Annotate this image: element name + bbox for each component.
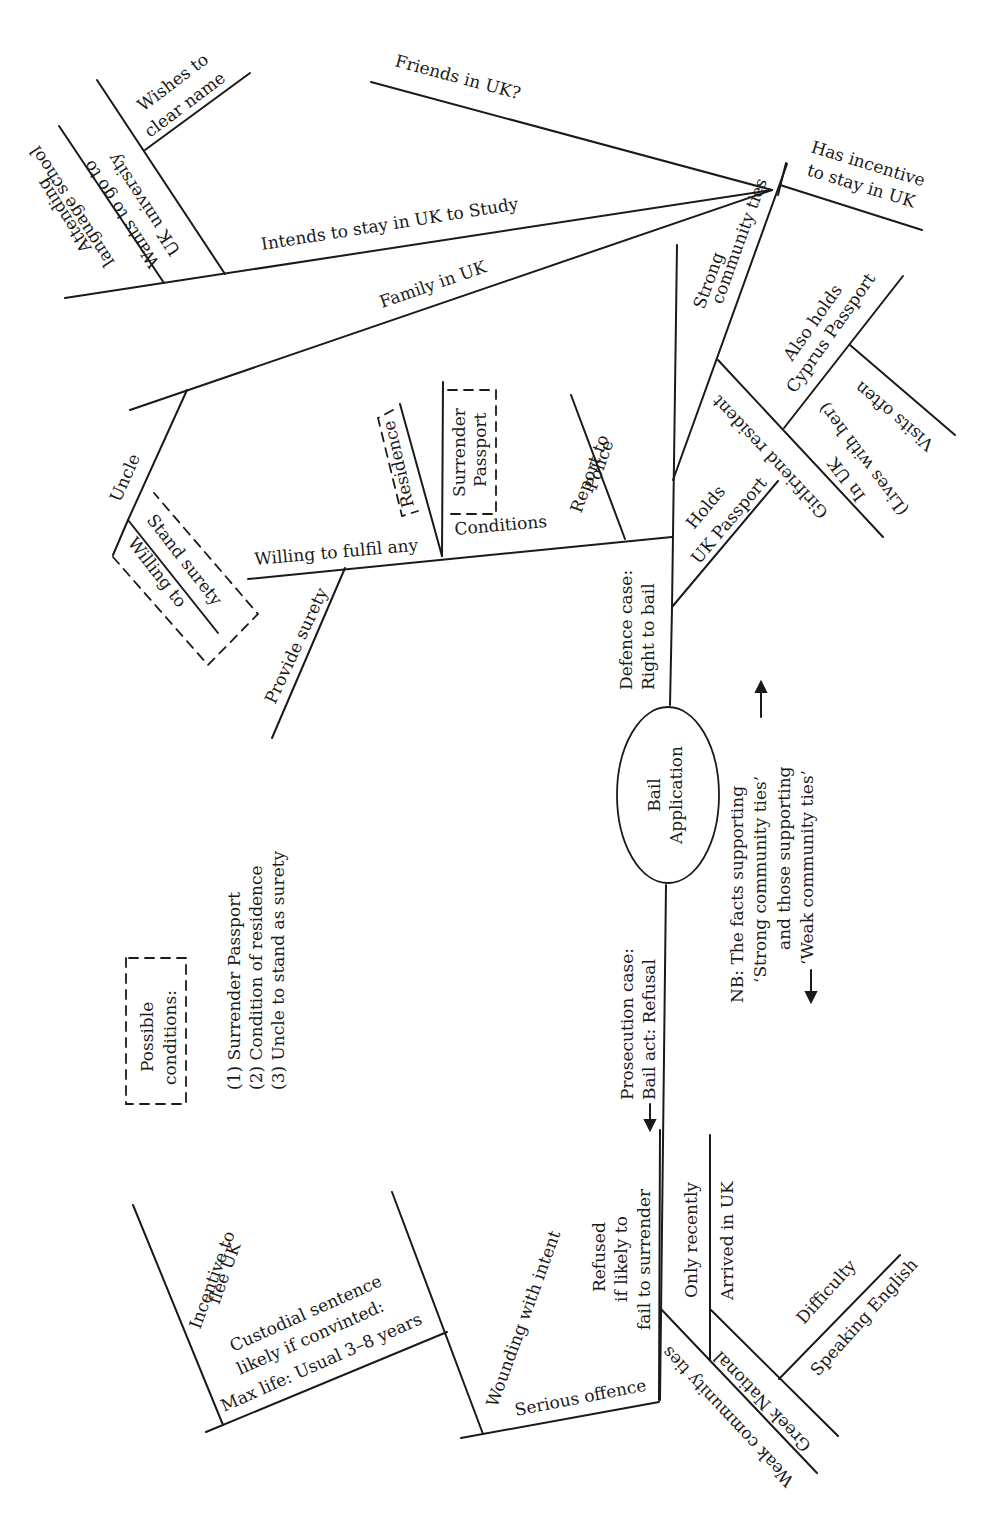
svg-text:Wounding with intent: Wounding with intent	[482, 1227, 565, 1409]
svg-text:Serious offence: Serious offence	[513, 1375, 648, 1420]
center-label-1: Bail	[644, 778, 664, 812]
svg-text:Possible: Possible	[137, 1002, 157, 1072]
svg-text:Arrived in UK: Arrived in UK	[717, 1181, 737, 1301]
study-sub-branches: Wishes to clear name Wants to go to UK u…	[25, 49, 250, 283]
surrender-label-2: Passport	[470, 412, 490, 487]
svg-text:conditions:: conditions:	[160, 990, 180, 1085]
svg-text:fail to surrender: fail to surrender	[634, 1188, 654, 1330]
strong-ties-branch: Strong community ties Holds UK Passport …	[672, 164, 955, 607]
surrender-label-1: Surrender	[449, 407, 469, 497]
uncle-branch: Uncle Willing to Stand surety	[105, 390, 258, 665]
svg-text:Defence case:: Defence case:	[616, 570, 636, 690]
center-label-2: Application	[666, 746, 686, 845]
residence-label: Residence	[379, 419, 418, 510]
weak-ties-branch: Weak community ties Only recently Greek …	[658, 1135, 922, 1491]
girlfriend-label: Girlfriend resident	[708, 392, 832, 523]
prosecution-heading: Prosecution case: Bail act: Refusal	[617, 948, 659, 1130]
condition-item-2: (2) Condition of residence	[246, 865, 266, 1090]
svg-text:Only recently: Only recently	[681, 1182, 701, 1298]
svg-text:Right to bail: Right to bail	[638, 583, 658, 690]
serious-offence-branch: Serious offence Wounding with intent Inc…	[133, 1192, 659, 1438]
condition-item-1: (1) Surrender Passport	[224, 892, 244, 1090]
bail-application-diagram: Bail Application Defence case: Right to …	[0, 0, 1001, 1525]
family-label: Family in UK	[377, 256, 489, 311]
bail-application-node: Bail Application	[617, 707, 719, 883]
conditions-label: Conditions	[454, 511, 548, 539]
possible-conditions-box: Possible conditions: (1) Surrender Passp…	[126, 850, 288, 1104]
defence-heading: Defence case: Right to bail	[616, 570, 658, 690]
conditions-branch: Willing to fulfil any Conditions Residen…	[248, 382, 672, 738]
condition-item-3: (3) Uncle to stand as surety	[268, 850, 288, 1090]
svg-text:‘Weak community ties’: ‘Weak community ties’	[797, 770, 817, 965]
provide-surety-label: Provide surety	[260, 584, 331, 707]
friends-label: Friends in UK?	[393, 51, 523, 104]
nb-note: NB: The facts supporting ‘Strong communi…	[727, 682, 817, 1003]
intends-study-label: Intends to stay in UK to Study	[259, 193, 520, 254]
svg-text:Speaking English: Speaking English	[806, 1254, 922, 1379]
svg-text:Refused: Refused	[589, 1222, 609, 1292]
svg-text:Prosecution case:: Prosecution case:	[617, 948, 637, 1100]
svg-text:‘Strong community ties’: ‘Strong community ties’	[750, 776, 770, 983]
svg-text:and those supporting: and those supporting	[774, 766, 794, 950]
svg-text:NB: The facts supporting: NB: The facts supporting	[727, 786, 747, 1003]
svg-text:Bail act: Refusal: Bail act: Refusal	[639, 959, 659, 1100]
refused-branch: Refused if likely to fail to surrender	[589, 1130, 660, 1400]
svg-text:if likely to: if likely to	[611, 1216, 631, 1302]
